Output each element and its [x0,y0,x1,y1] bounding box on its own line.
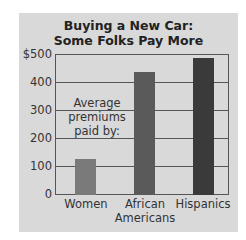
y-tick-400: 400 [20,76,52,88]
y-tick-0: 0 [20,188,52,200]
annotation-line-3: paid by: [62,124,132,138]
y-tick-300: 300 [20,104,52,116]
x-label-women: Women [55,197,117,211]
y-tick-200: 200 [20,132,52,144]
y-tick-500: $500 [20,48,52,60]
chart-title-line-1: Buying a New Car: [19,18,238,33]
x-label-hispanics: Hispanics [168,197,238,211]
chart-annotation: Average premiums paid by: [62,96,132,138]
chart-title-line-2: Some Folks Pay More [19,33,238,48]
y-tick-100: 100 [20,160,52,172]
bar-hispanics [193,58,214,195]
bar-african-americans [134,72,155,195]
annotation-line-1: Average [62,96,132,110]
chart-title: Buying a New Car: Some Folks Pay More [19,18,238,48]
bar-women [75,159,96,195]
annotation-line-2: premiums [62,110,132,124]
